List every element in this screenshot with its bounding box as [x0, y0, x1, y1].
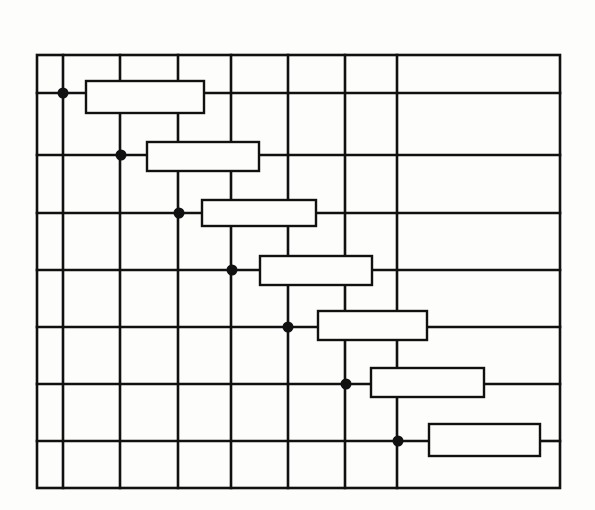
row-1: [37, 81, 560, 113]
row-3: [37, 200, 560, 226]
resistor-1: [86, 81, 204, 113]
junction-dot-7: [393, 436, 404, 447]
junction-dot-4: [227, 265, 238, 276]
resistor-2: [147, 142, 259, 171]
resistor-5: [318, 311, 427, 340]
junction-dot-6: [341, 379, 352, 390]
resistor-6: [371, 368, 484, 397]
junction-dot-3: [174, 208, 185, 219]
row-5: [37, 311, 560, 340]
resistor-3: [202, 200, 316, 226]
horizontal-conductors: [37, 81, 560, 456]
junction-dot-1: [58, 88, 69, 99]
row-2: [37, 142, 560, 171]
resistor-grid-diagram: [0, 0, 595, 510]
junction-dot-5: [283, 322, 294, 333]
resistor-4: [260, 256, 372, 285]
row-4: [37, 256, 560, 285]
row-7: [37, 424, 560, 456]
resistor-7: [429, 424, 540, 456]
row-6: [37, 368, 560, 397]
junction-dot-2: [116, 150, 127, 161]
